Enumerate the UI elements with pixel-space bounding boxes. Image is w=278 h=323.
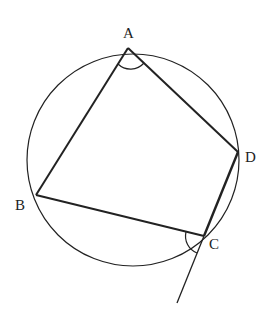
extension-line xyxy=(177,236,204,303)
side-ad xyxy=(128,48,238,152)
side-ab xyxy=(36,48,128,195)
label-a: A xyxy=(123,25,134,41)
label-b: B xyxy=(15,197,25,213)
angle-arc-a xyxy=(118,63,144,69)
side-bc xyxy=(36,195,204,236)
angle-arc-c xyxy=(185,232,197,253)
label-c: C xyxy=(209,236,219,252)
geometry-diagram: A B C D xyxy=(0,0,278,323)
label-d: D xyxy=(245,149,256,165)
